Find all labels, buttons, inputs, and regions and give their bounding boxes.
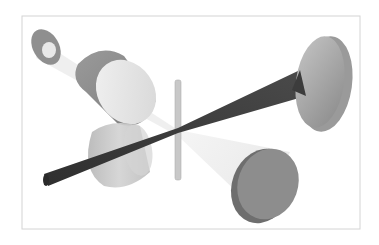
optical-setup-figure — [0, 0, 379, 245]
rod-end — [43, 174, 49, 186]
